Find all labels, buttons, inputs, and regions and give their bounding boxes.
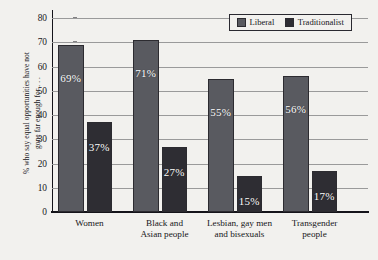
bar-traditionalist[interactable]: 37% (87, 122, 113, 212)
y-axis-title-area: % who say equal opportunities have not g… (0, 0, 26, 225)
bar-value-label: 27% (163, 166, 187, 178)
legend-swatch-icon (237, 18, 246, 27)
bar-value-label: 56% (284, 103, 308, 115)
y-tick-label: 0 (25, 207, 47, 217)
bar-group: 56%17% (277, 18, 352, 212)
legend-swatch-icon (285, 18, 294, 27)
bar-value-label: 69% (59, 72, 83, 84)
x-category-label: Lesbian, gay men and bisexuals (202, 216, 277, 258)
bar-value-label: 71% (134, 67, 158, 79)
bar-group: 71%27% (127, 18, 202, 212)
bar-group: 55%15% (202, 18, 277, 212)
bar-group: 69%37% (52, 18, 127, 212)
y-tick-label: 70 (25, 37, 47, 47)
y-tick-label: 60 (25, 62, 47, 72)
legend-item-liberal[interactable]: Liberal (237, 17, 274, 27)
x-axis-labels: WomenBlack and Asian peopleLesbian, gay … (52, 216, 352, 258)
bar-traditionalist[interactable]: 17% (312, 171, 338, 212)
bar-traditionalist[interactable]: 27% (162, 147, 188, 212)
bar-value-label: 37% (88, 141, 112, 153)
bar-traditionalist[interactable]: 15% (237, 176, 263, 212)
bar-liberal[interactable]: 55% (208, 79, 234, 212)
bar-liberal[interactable]: 69% (58, 45, 84, 212)
y-tick-label: 40 (25, 110, 47, 120)
bar-value-label: 55% (209, 106, 233, 118)
bar-groups: 69%37%71%27%55%15%56%17% (52, 18, 352, 212)
y-tick-label: 10 (25, 183, 47, 193)
bar-liberal[interactable]: 56% (283, 76, 309, 212)
y-axis-ticks: 01020304050607080 (25, 0, 47, 225)
x-category-label: Women (52, 216, 127, 258)
plot-area: 69%37%71%27%55%15%56%17% (52, 18, 352, 212)
legend-item-traditionalist[interactable]: Traditionalist (285, 17, 344, 27)
bar-chart: % who say equal opportunities have not g… (0, 0, 378, 260)
y-tick-label: 80 (25, 13, 47, 23)
x-category-label: Black and Asian people (127, 216, 202, 258)
x-category-label: Transgender people (277, 216, 352, 258)
legend-label: Traditionalist (298, 17, 344, 27)
y-tick-label: 50 (25, 86, 47, 96)
bar-liberal[interactable]: 71% (133, 40, 159, 212)
y-tick-label: 30 (25, 134, 47, 144)
y-tick-label: 20 (25, 159, 47, 169)
bar-value-label: 15% (238, 195, 262, 207)
bar-value-label: 17% (313, 190, 337, 202)
legend-label: Liberal (250, 17, 275, 27)
legend: LiberalTraditionalist (229, 14, 352, 31)
